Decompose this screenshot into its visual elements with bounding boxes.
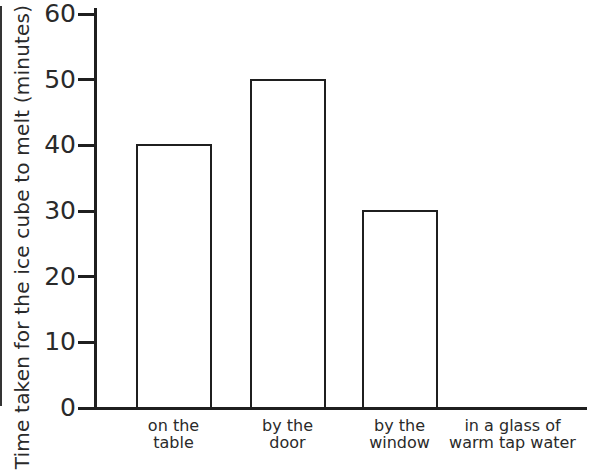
y-tick-label-10: 10 (24, 327, 76, 357)
bar-on-the-table (136, 144, 212, 410)
y-axis-line (94, 8, 97, 410)
bar-by-the-window (362, 210, 438, 410)
category-label-line: in a glass of (438, 417, 588, 434)
x-axis-line (94, 407, 587, 410)
y-tick-label-20: 20 (24, 262, 76, 292)
y-tick-label-0: 0 (24, 393, 76, 423)
y-tick-label-60: 60 (24, 0, 76, 29)
category-label-in-a-glass-of-warm-tap-water: in a glass ofwarm tap water (438, 417, 588, 451)
y-tick-label-30: 30 (24, 196, 76, 226)
category-label-line: warm tap water (438, 434, 588, 451)
y-tick-label-50: 50 (24, 65, 76, 95)
scan-edge-artifact (0, 6, 2, 406)
bar-by-the-door (250, 79, 326, 410)
bar-chart-figure: Time taken for the ice cube to melt (min… (0, 0, 598, 473)
y-tick-label-40: 40 (24, 130, 76, 160)
